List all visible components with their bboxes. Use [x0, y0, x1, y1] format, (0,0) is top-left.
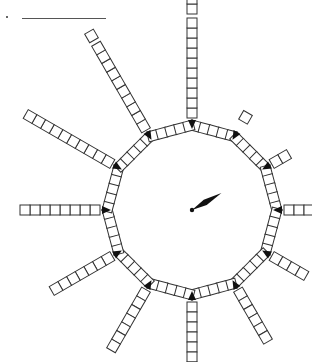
spoke-square-hour-6 — [187, 352, 197, 362]
spoke-square-hour-12 — [187, 48, 197, 58]
spoke-square-hour-12 — [187, 88, 197, 98]
spoke-square-hour-9 — [20, 205, 30, 215]
spoke-square-hour-9 — [60, 205, 70, 215]
clock-hand-icon — [192, 193, 221, 210]
spoke-square-hour-12 — [187, 78, 197, 88]
spoke-square-hour-6 — [187, 342, 197, 352]
clock-puzzle-figure — [0, 0, 312, 362]
spoke-square-hour-12 — [187, 38, 197, 48]
spoke-square-hour-9 — [30, 205, 40, 215]
spoke-square-hour-12 — [187, 28, 197, 38]
spoke-square-hour-12 — [187, 0, 197, 4]
spoke-square-hour-6 — [187, 332, 197, 342]
spoke-square-hour-9 — [50, 205, 60, 215]
spoke-square-hour-6 — [187, 312, 197, 322]
spoke-square-hour-12 — [187, 18, 197, 28]
spoke-square-hour-3 — [284, 205, 294, 215]
answer-blank-line — [22, 18, 106, 19]
spoke-square-hour-3 — [294, 205, 304, 215]
spoke-square-hour-12 — [187, 98, 197, 108]
hand-pivot-icon — [190, 208, 194, 212]
spoke-square-hour-9 — [40, 205, 50, 215]
spoke-square-hour-9 — [70, 205, 80, 215]
spoke-square-hour-11 — [85, 29, 99, 43]
spoke-square-hour-3 — [304, 205, 312, 215]
dodecagon-ring-diagram — [0, 0, 312, 362]
spoke-square-hour-1 — [239, 111, 253, 125]
spoke-square-hour-6 — [187, 302, 197, 312]
spoke-square-hour-6 — [187, 322, 197, 332]
spoke-square-hour-12 — [187, 4, 197, 14]
question-bullet — [6, 16, 8, 18]
spoke-square-hour-12 — [187, 58, 197, 68]
spoke-square-hour-12 — [187, 68, 197, 78]
spoke-square-hour-12 — [187, 108, 197, 118]
spoke-square-hour-9 — [80, 205, 90, 215]
spoke-square-hour-9 — [90, 205, 100, 215]
